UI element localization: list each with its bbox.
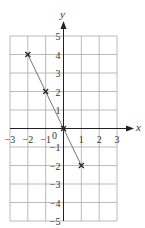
y-axis-label: y — [59, 8, 65, 20]
x-tick-label: 0 — [52, 130, 57, 141]
y-tick-label: −3 — [50, 179, 61, 190]
x-tick-label: 3 — [115, 134, 120, 145]
y-tick-label: 2 — [56, 87, 61, 98]
y-tick-label: −5 — [50, 216, 61, 227]
x-tick-label: 2 — [97, 134, 102, 145]
chart: −3−2−1012354321−1−2−3−4−5 x y — [0, 0, 145, 228]
y-tick-label: −4 — [50, 198, 61, 209]
y-tick-label: 5 — [56, 31, 61, 42]
y-axis-arrow-icon — [61, 21, 67, 29]
x-tick-label: −2 — [23, 134, 34, 145]
x-axis-arrow-icon — [126, 126, 134, 132]
y-tick-label: 4 — [56, 50, 61, 61]
x-tick-label: −3 — [5, 134, 16, 145]
x-tick-label: 1 — [79, 134, 84, 145]
axes — [10, 21, 134, 221]
y-tick-label: −1 — [50, 142, 61, 153]
x-axis-label: x — [135, 121, 141, 133]
y-tick-label: −2 — [50, 161, 61, 172]
y-tick-label: 3 — [56, 68, 61, 79]
